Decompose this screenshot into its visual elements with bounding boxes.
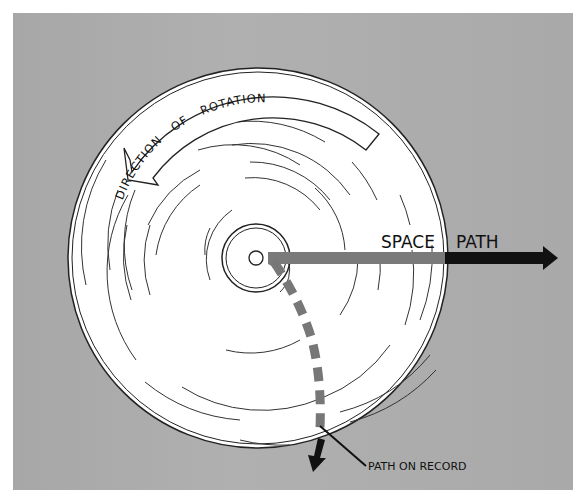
path-label: PATH — [456, 232, 499, 252]
leader-line — [320, 426, 366, 466]
space-label: SPACE — [381, 232, 435, 252]
path-on-record-label: PATH ON RECORD — [368, 460, 467, 473]
spindle-hole — [249, 251, 263, 265]
record-diagram: DIRECTION OF ROTATION SPACE PATH PATH ON… — [0, 0, 583, 501]
